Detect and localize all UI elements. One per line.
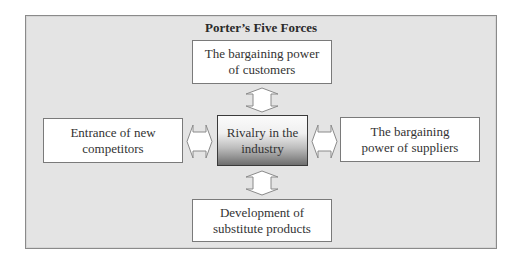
box-text-line2: power of suppliers [362,140,459,156]
box-rivalry-industry: Rivalry in the industry [217,115,308,166]
box-text-line2: of customers [205,62,320,78]
box-text-line1: Entrance of new [70,125,155,141]
box-text-line1: Development of [213,205,311,221]
box-text-line1: Rivalry in the [227,125,299,141]
box-text-line1: The bargaining [362,124,459,140]
box-bargaining-power-customers: The bargaining power of customers [192,40,332,84]
box-bargaining-power-suppliers: The bargaining power of suppliers [340,117,480,162]
box-development-substitute-products: Development of substitute products [192,199,332,242]
double-arrow-vertical-icon [244,170,280,196]
box-text-line2: competitors [70,141,155,157]
box-entrance-new-competitors: Entrance of new competitors [43,118,183,163]
double-arrow-vertical-icon [244,87,280,113]
double-arrow-horizontal-icon [311,123,338,160]
box-text-line1: The bargaining power [205,46,320,62]
double-arrow-horizontal-icon [186,123,213,160]
box-text-line2: substitute products [213,221,311,237]
diagram-title: Porter’s Five Forces [25,20,497,36]
box-text-line2: industry [227,141,299,157]
